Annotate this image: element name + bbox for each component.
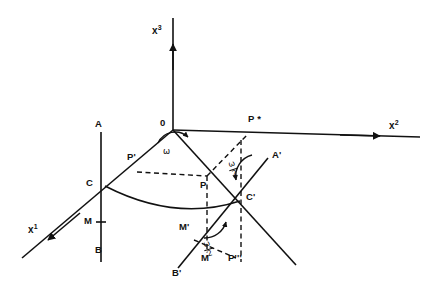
dashed-Pprime-to-P bbox=[137, 172, 207, 176]
point-label-A-prime: A' bbox=[272, 150, 282, 160]
diagram-canvas bbox=[0, 0, 435, 293]
point-label-P: P bbox=[200, 180, 207, 190]
arc-C-to-Cprime bbox=[105, 186, 240, 209]
axis-x1-arrow bbox=[48, 213, 80, 240]
point-label-P-star: P * bbox=[248, 114, 261, 124]
geometric-diagram: x3 x2 x1 0 ω ω 2 ω 2 A B C M P' P P * A'… bbox=[0, 0, 435, 293]
point-label-M: M bbox=[84, 216, 92, 226]
point-label-M-lower: M bbox=[201, 253, 209, 263]
point-label-P-prime: P' bbox=[127, 152, 136, 162]
angle-label-omega: ω bbox=[163, 147, 170, 156]
dashed-P-to-axis bbox=[207, 134, 248, 176]
point-label-C-prime: C' bbox=[246, 192, 256, 202]
point-label-M-prime: M' bbox=[179, 222, 190, 232]
axis-label-x2: x2 bbox=[389, 121, 399, 131]
point-label-B-prime: B' bbox=[172, 268, 182, 278]
axis-label-x1: x1 bbox=[28, 225, 38, 235]
axis-x1-line bbox=[22, 130, 173, 258]
point-label-P-triple-prime: P''' bbox=[228, 253, 242, 263]
dashed-lines bbox=[137, 134, 248, 262]
point-label-A: A bbox=[95, 119, 102, 129]
point-label-C: C bbox=[86, 178, 93, 188]
axis-x2-line bbox=[173, 130, 420, 137]
construction-lines bbox=[96, 130, 296, 268]
axis-label-x3: x3 bbox=[152, 26, 162, 36]
axis-x2-arrow bbox=[340, 135, 380, 136]
axis-group bbox=[22, 18, 420, 258]
point-label-B: B bbox=[95, 245, 102, 255]
point-label-origin: 0 bbox=[160, 118, 165, 128]
